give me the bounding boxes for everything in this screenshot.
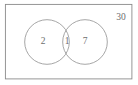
venn-diagram-figure: 2 1 7 30 [0,0,138,85]
universal-set-label: 30 [112,13,130,24]
region-label-left-only: 2 [36,37,50,48]
region-label-intersection: 1 [60,37,74,48]
region-label-right-only: 7 [78,37,92,48]
